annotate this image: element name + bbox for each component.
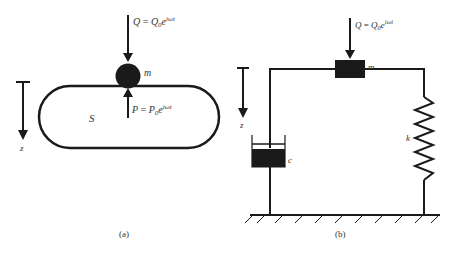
frame-top-wire (270, 69, 424, 148)
panel-a: z S Q = Q0eiωt m P = P0eiωt (a) (16, 15, 219, 239)
mass-ball (116, 64, 141, 89)
mass-block (335, 60, 365, 78)
force-q-arrow-icon (345, 18, 355, 59)
spring-icon (415, 97, 433, 180)
damper-label: c (288, 155, 292, 165)
z-axis-arrow-icon (237, 68, 249, 118)
ground-icon (245, 215, 440, 223)
damper-icon (252, 135, 285, 167)
z-axis-label-b: z (239, 120, 244, 130)
force-p-equation: P = P0eiωt (131, 103, 173, 117)
force-q-arrow-icon (123, 15, 133, 62)
force-q-equation: Q = Q0eiωt (133, 15, 176, 29)
panel-b: z m Q = Q0eiωt c k (237, 18, 440, 239)
caption-a: (a) (119, 229, 129, 239)
force-q-equation-b: Q = Q0eiωt (355, 18, 393, 31)
caption-b: (b) (335, 229, 346, 239)
diagram-canvas: z S Q = Q0eiωt m P = P0eiωt (a) z (0, 0, 457, 254)
body-s-label: S (89, 112, 95, 124)
spring-label: k (406, 133, 411, 143)
z-axis-arrow-icon (16, 82, 30, 140)
z-axis-label: z (19, 143, 24, 153)
mass-label-a: m (144, 67, 151, 78)
mass-label-b: m (368, 62, 375, 72)
